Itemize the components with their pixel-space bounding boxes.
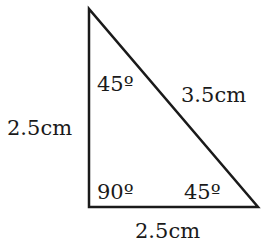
hypotenuse-label: 3.5cm bbox=[181, 83, 246, 107]
horizontal-side-label: 2.5cm bbox=[135, 219, 200, 243]
angle-top-label: 45º bbox=[97, 72, 134, 96]
right-triangle bbox=[89, 9, 258, 207]
triangle-diagram: 45º 90º 45º 3.5cm 2.5cm 2.5cm bbox=[0, 0, 267, 249]
vertical-side-label: 2.5cm bbox=[7, 116, 72, 140]
angle-bottom-right-label: 45º bbox=[184, 180, 221, 204]
angle-bottom-left-label: 90º bbox=[97, 180, 134, 204]
